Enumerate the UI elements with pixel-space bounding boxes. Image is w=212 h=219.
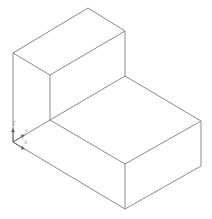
x-axis-label: X xyxy=(24,139,28,145)
edge-lower-top-right-back xyxy=(125,76,201,121)
edge-lower-right-bottom xyxy=(125,166,201,209)
edge-upper-top-back-right xyxy=(88,8,125,31)
z-axis-label: Z xyxy=(12,120,16,126)
edge-lower-top-front-right xyxy=(125,121,201,164)
edge-upper-top-front-right xyxy=(50,31,125,75)
edge-upper-top-front-left xyxy=(13,53,50,75)
model-edges xyxy=(13,8,201,209)
cad-viewport[interactable]: ZYX xyxy=(0,0,212,219)
isometric-model-drawing[interactable]: ZYX xyxy=(0,0,212,219)
y-axis-arrow-icon xyxy=(13,135,24,142)
edge-upper-top-back-left xyxy=(13,8,88,53)
edge-step-back-edge xyxy=(50,76,125,120)
edge-lower-front-left-bottom xyxy=(13,142,125,209)
edge-lower-top-front-diag xyxy=(50,120,125,164)
x-axis-arrow-icon xyxy=(13,142,24,149)
